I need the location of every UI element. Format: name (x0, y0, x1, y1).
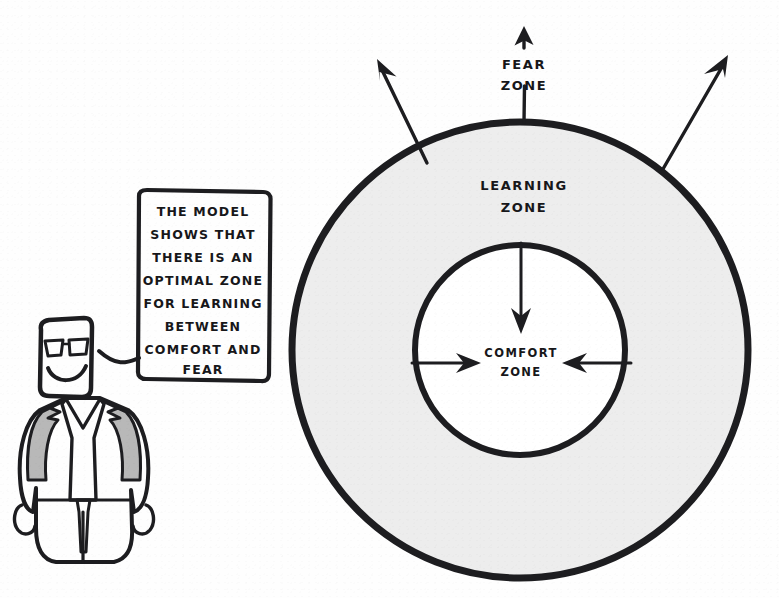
jacket-right-shade (100, 400, 140, 480)
sunglasses-icon (45, 339, 88, 356)
bubble-text-line-4: OPTIMAL ZONE (143, 273, 264, 288)
bubble-text-line-2: SHOWS THAT (150, 227, 255, 242)
fear-arrow-up-right-icon (663, 55, 728, 169)
bubble-text-line-7: COMFORT AND (144, 342, 261, 357)
character-head (40, 318, 92, 397)
comfort-zone-illustration: FEAR ZONE LEARNING ZONE COMFORT ZONE THE… (0, 0, 779, 598)
jacket-left-shade (28, 400, 66, 480)
comfort-zone-label-line-2: ZONE (500, 365, 541, 379)
shirt-collar (62, 399, 104, 500)
bubble-text-line-3: THERE IS AN (152, 250, 253, 265)
smile-icon (48, 366, 86, 380)
head-outline (40, 318, 92, 397)
diagram-canvas: FEAR ZONE LEARNING ZONE COMFORT ZONE THE… (0, 0, 779, 598)
fear-zone-label-line-2: ZONE (501, 78, 548, 93)
bubble-text-line-1: THE MODEL (157, 204, 250, 219)
character-presenter (15, 318, 154, 562)
speech-bubble: THE MODEL SHOWS THAT THERE IS AN OPTIMAL… (99, 190, 271, 381)
learning-zone-label-line-2: ZONE (501, 200, 548, 215)
bubble-text-line-8: FEAR (182, 362, 223, 377)
fear-arrow-up-left-icon (377, 59, 427, 163)
learning-zone-label-line-1: LEARNING (480, 178, 567, 193)
fear-zone-label-line-1: FEAR (502, 57, 546, 72)
bubble-text-line-6: BETWEEN (165, 319, 241, 334)
character-body (15, 398, 154, 562)
fear-arrow-up-icon (515, 26, 534, 122)
speech-bubble-tail (99, 351, 139, 362)
bubble-text-line-5: FOR LEARNING (143, 296, 262, 311)
comfort-zone-label-line-1: COMFORT (484, 346, 557, 360)
